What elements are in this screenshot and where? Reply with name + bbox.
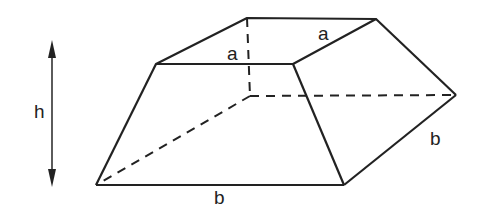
label-b-side: b [430,128,441,149]
frustum-diagram: h a a b b [0,0,479,210]
arrow-down-icon [48,169,56,187]
back-right-edge [376,19,456,95]
visible-edges [96,18,456,185]
hidden-back-edge [250,95,456,96]
label-a-side: a [318,23,329,44]
label-h: h [34,101,45,122]
front-left-edge [96,64,156,185]
label-a-front: a [227,43,238,64]
label-b-front: b [214,187,225,208]
hidden-vertical-edge [247,18,250,96]
front-right-edge [293,64,344,185]
arrow-up-icon [48,40,56,58]
height-arrow [48,40,56,187]
top-face [156,18,376,64]
